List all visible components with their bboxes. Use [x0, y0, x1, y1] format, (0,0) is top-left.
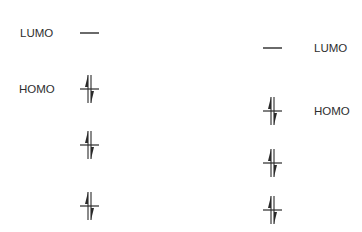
left-homo-label: HOMO: [19, 83, 55, 95]
left-homo-2-level: [80, 191, 99, 221]
paired-electrons-icon: [80, 191, 99, 221]
paired-electrons-icon: [80, 130, 99, 160]
paired-electrons-icon: [263, 195, 282, 225]
right-homo-label: HOMO: [314, 105, 350, 117]
left-homo-level: [80, 74, 99, 104]
empty-orbital-icon: [263, 33, 282, 63]
right-lumo-level: [263, 33, 282, 63]
right-homo-level: [263, 96, 282, 126]
right-homo-1-level: [263, 148, 282, 178]
left-lumo-level: [80, 18, 99, 48]
mo-energy-diagram: LUMO HOMO: [0, 0, 362, 232]
paired-electrons-icon: [263, 148, 282, 178]
paired-electrons-icon: [263, 96, 282, 126]
empty-orbital-icon: [80, 18, 99, 48]
left-homo-1-level: [80, 130, 99, 160]
right-lumo-label: LUMO: [314, 42, 347, 54]
paired-electrons-icon: [80, 74, 99, 104]
left-lumo-label: LUMO: [20, 27, 53, 39]
right-homo-2-level: [263, 195, 282, 225]
